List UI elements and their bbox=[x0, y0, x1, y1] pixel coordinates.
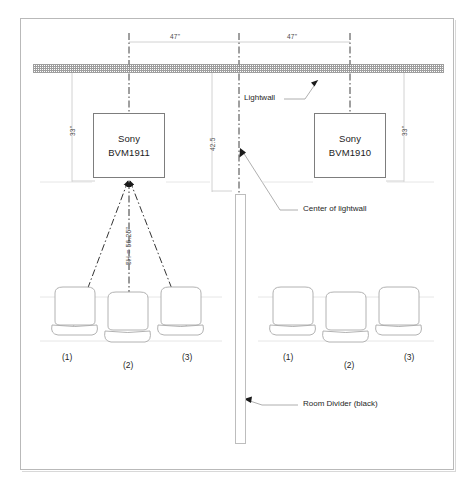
chair-label-left-2: (2) bbox=[123, 360, 133, 370]
room-divider-bar bbox=[235, 194, 246, 444]
annotation-center-of-lightwall: Center of lightwall bbox=[303, 204, 367, 213]
monitor-left-brand: Sony bbox=[118, 132, 140, 146]
monitor-box-right[interactable]: Sony BVM1910 bbox=[314, 113, 386, 178]
monitor-right-brand: Sony bbox=[339, 132, 361, 146]
dimension-label-center-vertical: 42.5 bbox=[209, 138, 216, 151]
chair-label-left-3: (3) bbox=[182, 352, 192, 362]
dimension-label-viewing-distance: 5H = 56.25" bbox=[125, 227, 132, 265]
lightwall-band bbox=[33, 64, 444, 73]
monitor-right-model: BVM1910 bbox=[329, 146, 371, 160]
monitor-left-model: BVM1911 bbox=[108, 146, 150, 160]
dimension-label-left-drop: 33" bbox=[69, 126, 76, 136]
annotation-room-divider: Room Divider (black) bbox=[303, 399, 378, 408]
chair-label-right-1: (1) bbox=[283, 352, 293, 362]
chair-label-left-1: (1) bbox=[62, 352, 72, 362]
annotation-lightwall: Lightwall bbox=[244, 93, 275, 102]
diagram-page: Sony BVM1911 Sony BVM1910 47" 47" 33" 33… bbox=[0, 0, 476, 489]
dimension-label-right-drop: 33" bbox=[401, 126, 408, 136]
chair-label-right-3: (3) bbox=[404, 352, 414, 362]
dimension-label-left-span: 47" bbox=[170, 33, 180, 40]
chair-label-right-2: (2) bbox=[344, 360, 354, 370]
dimension-label-right-span: 47" bbox=[287, 33, 297, 40]
monitor-box-left[interactable]: Sony BVM1911 bbox=[93, 113, 165, 178]
